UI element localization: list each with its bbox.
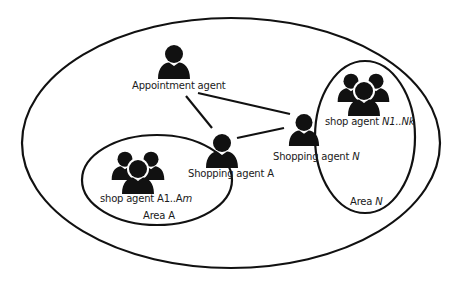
area-n-italic: N [375, 196, 382, 207]
shop-agent-group-n-icon [338, 74, 390, 116]
area-a-label: Area A [143, 210, 175, 222]
area-n-label: Area N [350, 196, 382, 208]
shopping-agent-a-icon [206, 134, 238, 168]
shopping-agent-a-text: Shopping agent A [188, 168, 274, 179]
shopping-agent-a-label: Shopping agent A [188, 168, 274, 180]
shop-agent-a-label: shop agent A1..Am [100, 193, 192, 205]
shop-agent-n-italic: N1..Nk [382, 116, 414, 127]
shopping-agent-n-prefix: Shopping agent [273, 151, 352, 162]
appointment-agent-label: Appointment agent [132, 80, 226, 92]
shopping-agent-n-label: Shopping agent N [273, 151, 360, 163]
shop-agent-a-prefix: shop agent A1..A [100, 193, 182, 204]
shopping-agent-n-italic: N [352, 151, 359, 162]
edge-appointment-shopping-n [198, 93, 290, 114]
area-a-text: Area A [143, 210, 175, 221]
shop-agent-a-italic: m [182, 193, 192, 204]
area-n-prefix: Area [350, 196, 375, 207]
appointment-agent-icon [158, 45, 190, 79]
shop-agent-n-label: shop agent N1..Nk [325, 116, 414, 128]
edge-shopping-a-shopping-n [237, 128, 284, 138]
appointment-agent-text: Appointment agent [132, 80, 226, 91]
edge-appointment-shopping-a [186, 96, 212, 128]
shop-agent-group-a-icon [112, 152, 165, 194]
diagram-canvas [0, 0, 459, 282]
shop-agent-n-prefix: shop agent [325, 116, 382, 127]
